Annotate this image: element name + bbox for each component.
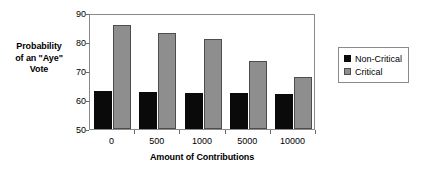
y-axis-tick-mark [85,130,89,131]
y-axis-title-line-1: Probability [2,41,76,53]
y-axis-tick-mark [85,43,89,44]
bar-non-critical-5000 [230,93,248,129]
bar-critical-5000 [249,61,267,129]
bar-critical-500 [158,33,176,129]
chart-legend: Non-CriticalCritical [338,47,409,83]
legend-swatch-icon [344,68,351,75]
bar-critical-10000 [294,77,312,129]
y-axis-tick-label: 60 [70,97,86,106]
x-axis-tick-label: 0 [109,136,114,146]
bar-critical-0 [113,25,131,129]
bar-non-critical-1000 [185,93,203,129]
legend-label: Non-Critical [355,54,402,64]
legend-entry-critical[interactable]: Critical [344,65,402,78]
y-axis-tick-label: 70 [70,68,86,77]
x-axis-tick-mark [225,130,226,134]
y-axis-tick-labels: 5060708090 [66,14,86,130]
legend-entry-non-critical[interactable]: Non-Critical [344,52,402,65]
y-axis-title-line-2: of an "Aye" [2,53,76,65]
plot-inner [90,15,314,129]
y-axis-title: Probability of an "Aye" Vote [2,41,76,76]
x-axis-tick-mark [134,130,135,134]
x-axis-tick-label: 500 [149,136,164,146]
x-axis-tick-mark [270,130,271,134]
plot-area [89,14,315,130]
bar-critical-1000 [204,39,222,129]
y-axis-tick-label: 90 [70,10,86,19]
bar-non-critical-500 [139,92,157,129]
y-axis-tick-mark [85,14,89,15]
y-axis-tick-mark [85,101,89,102]
legend-label: Critical [355,67,383,77]
y-axis-tick-mark [85,72,89,73]
x-axis-tick-mark [179,130,180,134]
x-axis-title: Amount of Contributions [89,152,315,162]
x-axis-tick-label: 10000 [280,136,305,146]
legend-swatch-icon [344,55,351,62]
y-axis-tick-label: 50 [70,126,86,135]
bar-chart-figure: Probability of an "Aye" Vote 5060708090 … [0,0,431,172]
x-axis-tick-label: 5000 [237,136,257,146]
bar-non-critical-10000 [275,94,293,129]
y-axis-title-line-3: Vote [2,64,76,76]
x-axis-tick-mark [315,130,316,134]
x-axis-tick-label: 1000 [192,136,212,146]
bar-non-critical-0 [94,91,112,129]
y-axis-tick-label: 80 [70,39,86,48]
